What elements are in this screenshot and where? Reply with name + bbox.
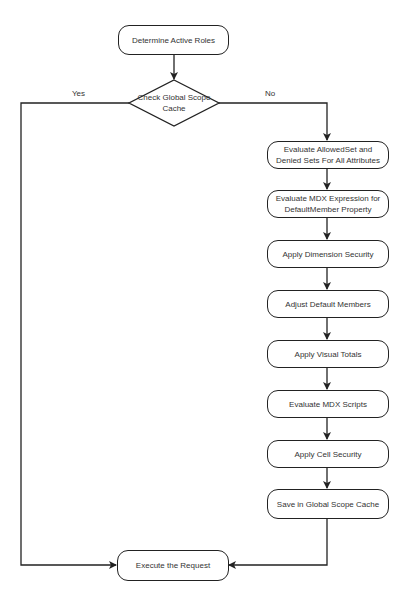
end-label: Execute the Request: [136, 560, 210, 571]
start-node: Determine Active Roles: [118, 25, 229, 55]
arrow-no-branch: [219, 103, 327, 140]
step-cell-security: Apply Cell Security: [267, 440, 389, 468]
start-label: Determine Active Roles: [132, 35, 215, 46]
step-save-cache: Save in Global Scope Cache: [267, 489, 389, 519]
step-adjust-default-members: Adjust Default Members: [267, 290, 389, 318]
end-node: Execute the Request: [117, 550, 229, 581]
decision-label: Check Global Scope Cache: [134, 90, 214, 116]
no-label: No: [265, 89, 275, 98]
step-mdx-scripts: Evaluate MDX Scripts: [267, 390, 389, 418]
arrow-yes-branch: [21, 103, 129, 565]
arrow-save-to-execute: [229, 519, 327, 565]
step-dimension-security: Apply Dimension Security: [267, 240, 389, 268]
yes-label: Yes: [72, 89, 85, 98]
step-default-member-mdx: Evaluate MDX Expression for DefaultMembe…: [267, 190, 389, 218]
step-visual-totals: Apply Visual Totals: [267, 340, 389, 368]
step-allowed-denied-sets: Evaluate AllowedSet and Denied Sets For …: [267, 141, 389, 169]
